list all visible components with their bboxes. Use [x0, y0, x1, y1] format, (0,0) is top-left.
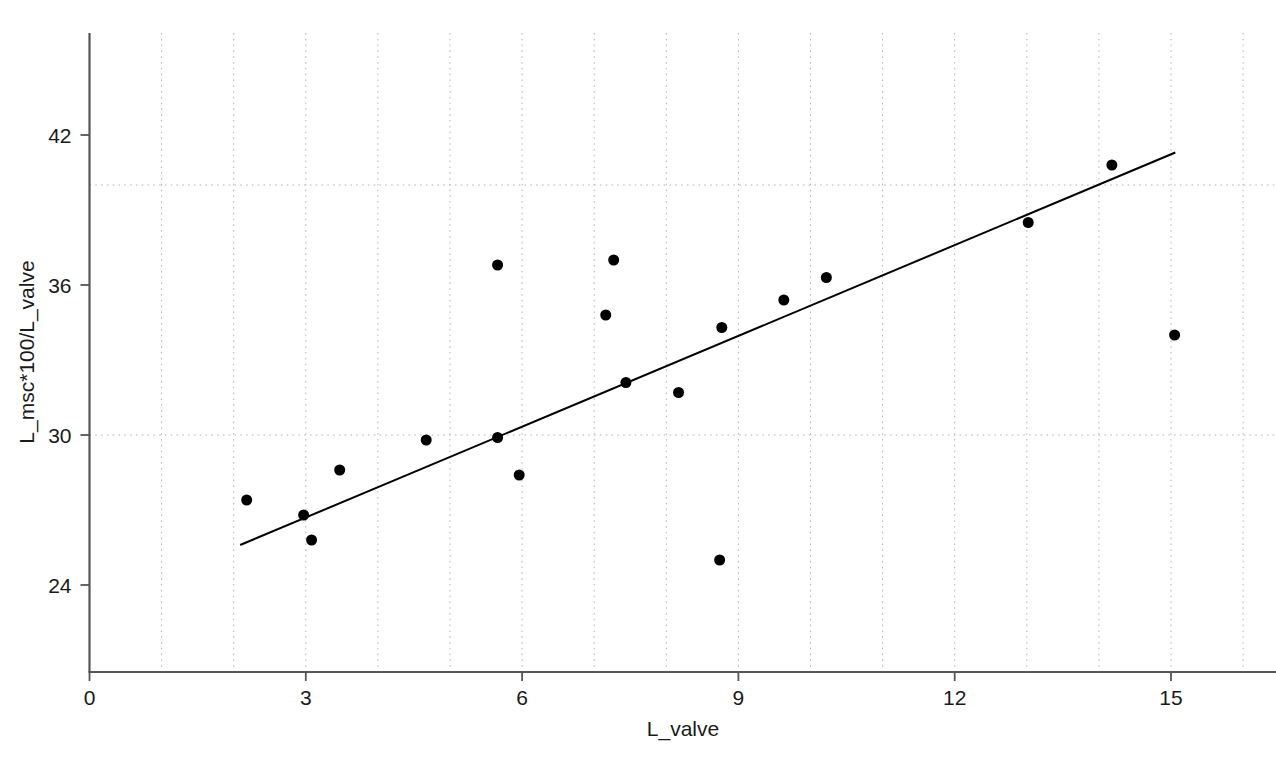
y-tick-label: 42: [48, 124, 71, 147]
data-point: [714, 555, 725, 566]
axis-ticks: [81, 135, 1172, 681]
data-point: [492, 432, 503, 443]
tick-labels: 0369121524303642: [48, 124, 1183, 709]
data-point: [673, 387, 684, 398]
x-tick-label: 12: [943, 686, 966, 709]
data-point: [1106, 160, 1117, 171]
data-point: [514, 470, 525, 481]
x-tick-label: 3: [300, 686, 312, 709]
data-point: [492, 260, 503, 271]
data-point: [600, 310, 611, 321]
y-tick-label: 36: [48, 274, 71, 297]
grid-lines: [90, 33, 1276, 672]
axis-lines: [89, 33, 1276, 672]
data-point: [620, 377, 631, 388]
y-axis-title: L_msc*100/L_valve: [15, 260, 39, 443]
data-point: [306, 535, 317, 546]
x-tick-label: 9: [733, 686, 745, 709]
scatter-plot-figure: 0369121524303642 L_valve L_msc*100/L_val…: [0, 0, 1276, 759]
data-point: [1169, 330, 1180, 341]
regression-line: [240, 153, 1175, 546]
data-point: [334, 465, 345, 476]
y-tick-label: 30: [48, 424, 71, 447]
y-tick-label: 24: [48, 574, 72, 597]
x-axis-title: L_valve: [647, 717, 719, 741]
data-point: [421, 435, 432, 446]
data-points: [241, 160, 1180, 566]
data-point: [608, 255, 619, 266]
regression-line-segment: [240, 153, 1175, 546]
data-point: [821, 272, 832, 283]
data-point: [778, 295, 789, 306]
x-tick-label: 0: [84, 686, 96, 709]
x-tick-label: 15: [1159, 686, 1182, 709]
data-point: [298, 510, 309, 521]
data-point: [1023, 217, 1034, 228]
data-point: [241, 495, 252, 506]
x-tick-label: 6: [516, 686, 528, 709]
plot-canvas: 0369121524303642 L_valve L_msc*100/L_val…: [0, 0, 1276, 759]
data-point: [716, 322, 727, 333]
